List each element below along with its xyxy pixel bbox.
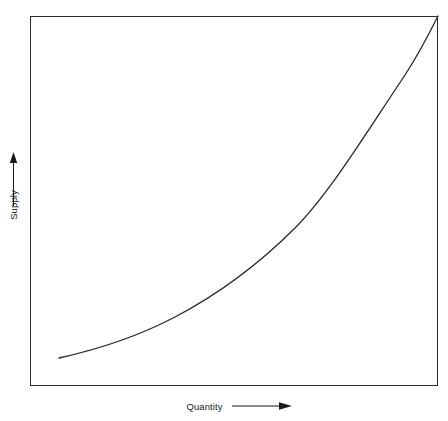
y-axis-label: Supply bbox=[7, 175, 21, 235]
x-axis-label-group: Quantity bbox=[150, 398, 330, 414]
arrow-right-icon bbox=[232, 400, 294, 412]
y-axis-label-group: Supply bbox=[0, 150, 28, 270]
x-axis-label: Quantity bbox=[186, 401, 222, 412]
plot-frame bbox=[30, 16, 438, 386]
supply-curve-figure: Supply Quantity bbox=[0, 0, 448, 421]
